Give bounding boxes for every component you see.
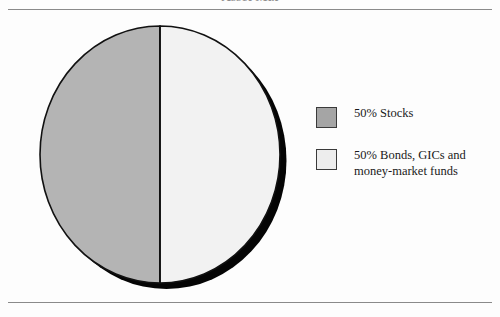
top-divider-rule xyxy=(8,9,492,10)
pie-slice-stocks xyxy=(40,26,160,283)
legend-label-stocks: 50% Stocks xyxy=(354,106,413,122)
legend-label-bonds-line2: money-market funds xyxy=(354,164,466,180)
legend-label-bonds-line1: 50% Bonds, GICs and xyxy=(354,148,466,162)
legend-label-bonds: 50% Bonds, GICs and money-market funds xyxy=(354,148,466,179)
figure-title-fragment: Asset Mix xyxy=(0,0,500,1)
legend-label-stocks-line1: 50% Stocks xyxy=(354,106,413,120)
pie-slice-bonds xyxy=(160,26,280,283)
pie-chart-figure: Asset Mix 50% Stocks 50% Bonds, GICs and… xyxy=(0,0,500,317)
pie-chart-graphic xyxy=(30,18,298,293)
legend-swatch-bonds xyxy=(316,149,337,170)
legend-item-stocks: 50% Stocks xyxy=(316,106,492,128)
chart-legend: 50% Stocks 50% Bonds, GICs and money-mar… xyxy=(316,106,492,199)
legend-item-bonds: 50% Bonds, GICs and money-market funds xyxy=(316,148,492,179)
bottom-divider-rule xyxy=(8,302,492,303)
pie-svg xyxy=(30,18,298,293)
legend-swatch-stocks xyxy=(316,107,337,128)
